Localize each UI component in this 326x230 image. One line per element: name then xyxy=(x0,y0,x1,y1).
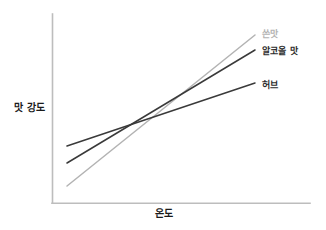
series-line-bitter xyxy=(67,35,255,186)
series-label-alcohol: 알코올 맛 xyxy=(262,44,298,57)
chart-container: 맛 강도 온도 쓴맛 알코올 맛 허브 xyxy=(0,0,326,230)
series-line-alcohol xyxy=(67,50,255,163)
y-axis-title: 맛 강도 xyxy=(14,99,45,114)
series-label-herb: 허브 xyxy=(262,78,278,91)
series-label-bitter: 쓴맛 xyxy=(262,27,278,40)
x-axis-title: 온도 xyxy=(155,205,173,220)
series-line-herb xyxy=(67,83,255,146)
